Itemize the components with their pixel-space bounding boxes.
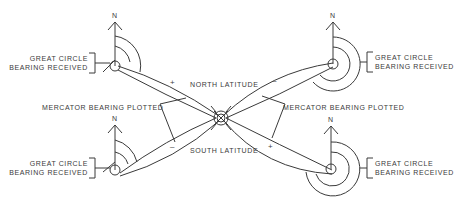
sign-top-left: +: [170, 78, 175, 87]
label-line: GREAT CIRCLE: [375, 159, 454, 168]
label-line: GREAT CIRCLE: [375, 53, 454, 62]
sign-bottom-left: –: [170, 142, 174, 151]
station-label-bottom-right: GREAT CIRCLE BEARING RECEIVED: [375, 159, 454, 177]
north-label: N: [112, 12, 117, 19]
label-line: GREAT CIRCLE: [0, 54, 88, 63]
label-line: BEARING RECEIVED: [0, 63, 88, 72]
station-label-top-right: GREAT CIRCLE BEARING RECEIVED: [375, 53, 454, 71]
sign-bottom-right: +: [268, 142, 273, 151]
station-label-top-left: GREAT CIRCLE BEARING RECEIVED: [0, 54, 88, 72]
north-label: N: [112, 115, 117, 122]
mercator-label-right: MERCATOR BEARING PLOTTED: [283, 103, 405, 112]
station-label-bottom-left: GREAT CIRCLE BEARING RECEIVED: [0, 159, 88, 177]
label-line: BEARING RECEIVED: [0, 168, 88, 177]
label-line: BEARING RECEIVED: [375, 62, 454, 71]
sign-top-right: –: [272, 76, 276, 85]
south-latitude-label: SOUTH LATITUDE: [190, 146, 258, 155]
north-latitude-label: NORTH LATITUDE: [190, 80, 258, 89]
station-top-left-icon: [103, 22, 141, 72]
label-line: GREAT CIRCLE: [0, 159, 88, 168]
mercator-label-left: MERCATOR BEARING PLOTTED: [42, 103, 164, 112]
center-transmitter-icon: [211, 106, 231, 130]
north-label: N: [328, 116, 333, 123]
label-line: BEARING RECEIVED: [375, 168, 454, 177]
station-top-right-icon: [313, 22, 360, 91]
north-label: N: [330, 12, 335, 19]
